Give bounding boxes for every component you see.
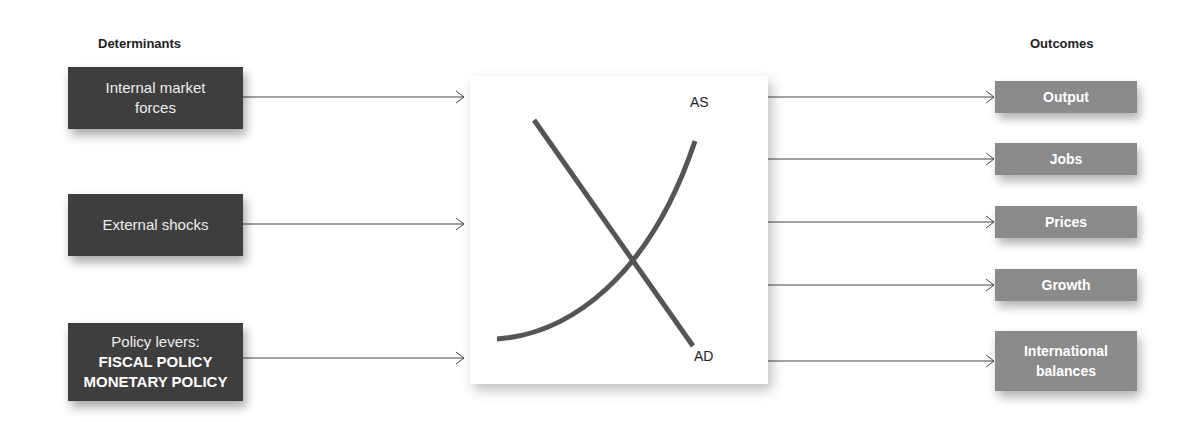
outcome-growth: Growth <box>995 269 1137 301</box>
ad-curve <box>534 120 693 346</box>
outcome-label: balances <box>1036 361 1096 381</box>
determinant-label: forces <box>135 98 176 118</box>
outcome-label: Jobs <box>1050 149 1083 169</box>
ad-label: AD <box>694 348 713 364</box>
as-ad-curves <box>470 76 768 384</box>
fiscal-policy-label: FISCAL POLICY <box>99 352 213 372</box>
determinant-external-shocks: External shocks <box>68 194 243 256</box>
outcome-label: Growth <box>1042 275 1091 295</box>
determinant-label: Policy levers: <box>111 332 199 352</box>
outcome-prices: Prices <box>995 206 1137 238</box>
determinant-internal-market-forces: Internal market forces <box>68 67 243 129</box>
outcome-label: Prices <box>1045 212 1087 232</box>
outcome-label: International <box>1024 341 1108 361</box>
determinant-label: Internal market <box>105 78 205 98</box>
as-ad-graph: AS AD <box>470 76 768 384</box>
determinant-label: External shocks <box>103 215 209 235</box>
outcome-international-balances: International balances <box>995 331 1137 391</box>
outcome-jobs: Jobs <box>995 143 1137 175</box>
monetary-policy-label: MONETARY POLICY <box>84 372 228 392</box>
outcome-output: Output <box>995 81 1137 113</box>
as-label: AS <box>690 94 709 110</box>
determinant-policy-levers: Policy levers: FISCAL POLICY MONETARY PO… <box>68 323 243 401</box>
outcome-label: Output <box>1043 87 1089 107</box>
